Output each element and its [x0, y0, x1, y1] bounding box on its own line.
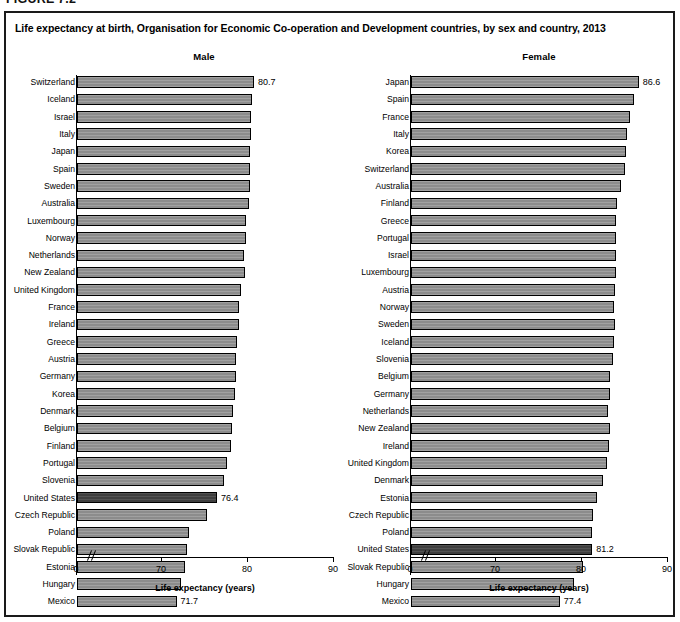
bar-row: Netherlands: [342, 404, 674, 421]
bar-row: Belgium: [8, 421, 340, 438]
bar-row-label: Luxembourg: [11, 216, 75, 227]
bar: [77, 284, 241, 296]
chart-male-plot: Switzerland80.7IcelandIsraelItalyJapanSp…: [8, 75, 340, 575]
charts-container: Male Switzerland80.7IcelandIsraelItalyJa…: [6, 49, 673, 615]
bar-row: Finland: [8, 439, 340, 456]
bar-row: Slovenia: [342, 352, 674, 369]
bar: [77, 336, 237, 348]
bar-row: Estonia: [342, 491, 674, 508]
bar-row-label: Italy: [11, 129, 75, 140]
chart-male-axis-title: Life expectancy (years): [76, 583, 334, 593]
bar-row: Korea: [8, 387, 340, 404]
bar-row-label: Spain: [345, 94, 409, 105]
bar-row-label: Germany: [11, 371, 75, 382]
bar: [77, 198, 249, 210]
figure-panel: Life expectancy at birth, Organisation f…: [4, 11, 675, 617]
bar-row: Iceland: [342, 335, 674, 352]
axis-tick: [581, 557, 582, 562]
bar: [411, 353, 613, 365]
bar: [411, 163, 625, 175]
bar-row-label: Israel: [345, 250, 409, 261]
bar: [411, 509, 593, 521]
bar-value-label: 80.7: [258, 77, 276, 88]
bar-row-label: New Zealand: [345, 423, 409, 434]
bar: [77, 267, 245, 279]
bar-row-label: Denmark: [345, 475, 409, 486]
bar: [77, 94, 252, 106]
bar-row: Spain: [8, 162, 340, 179]
bar-row-label: Czech Republic: [345, 510, 409, 521]
bar-row-label: Switzerland: [11, 77, 75, 88]
bar-row-label: Belgium: [345, 371, 409, 382]
bar-row-label: Japan: [345, 77, 409, 88]
bar-row-label: Iceland: [11, 94, 75, 105]
bar-row: Austria: [8, 352, 340, 369]
chart-male: Male Switzerland80.7IcelandIsraelItalyJa…: [8, 49, 340, 615]
bar: [411, 371, 610, 383]
bar-row: Czech Republic: [342, 508, 674, 525]
bar-row: New Zealand: [8, 265, 340, 282]
bar: [411, 336, 614, 348]
chart-female-value-axis: 0708090 Life expectancy (years): [342, 549, 674, 615]
bar: [411, 475, 603, 487]
bar-row-label: Ireland: [345, 441, 409, 452]
bar-row-label: United Kingdom: [345, 458, 409, 469]
bar-row-label: Israel: [11, 112, 75, 123]
bar: [411, 198, 617, 210]
bar-row-label: Greece: [345, 216, 409, 227]
bar-row: Slovenia: [8, 473, 340, 490]
bar: [77, 163, 250, 175]
bar-row-label: New Zealand: [11, 267, 75, 278]
bar-row-label: Netherlands: [11, 250, 75, 261]
bar: [411, 492, 597, 504]
bar-row-label: Korea: [345, 146, 409, 157]
bar-row-label: Austria: [11, 354, 75, 365]
bar-value-label: 86.6: [643, 77, 661, 88]
bar-row-label: Portugal: [345, 233, 409, 244]
bar: [77, 388, 235, 400]
figure-number: FIGURE 7.2: [6, 0, 76, 6]
bar-row: Iceland: [8, 92, 340, 109]
chart-female-bar-rows: Japan86.6SpainFranceItalyKoreaSwitzerlan…: [342, 75, 674, 612]
bar-row-label: United States: [11, 493, 75, 504]
bar-row-label: Norway: [11, 233, 75, 244]
bar-highlighted: [77, 492, 217, 504]
bar-row: France: [342, 110, 674, 127]
bar: [77, 475, 224, 487]
bar: [411, 440, 609, 452]
axis-tick: [667, 557, 668, 562]
bar-row-label: Poland: [11, 527, 75, 538]
bar-row: Israel: [342, 248, 674, 265]
bar-row: Germany: [342, 387, 674, 404]
bar: [411, 405, 608, 417]
bar-row-label: United Kingdom: [11, 285, 75, 296]
bar: [77, 76, 254, 88]
bar-row: United Kingdom: [8, 283, 340, 300]
axis-tick-label: 0: [407, 564, 412, 574]
bar-row: Israel: [8, 110, 340, 127]
bar: [77, 457, 227, 469]
bar-row-label: Portugal: [11, 458, 75, 469]
bar-row: Switzerland80.7: [8, 75, 340, 92]
bar-row-label: Luxembourg: [345, 267, 409, 278]
bar: [411, 267, 616, 279]
bar-row-label: Norway: [345, 302, 409, 313]
bar: [77, 111, 251, 123]
bar: [411, 319, 615, 331]
bar-row: Italy: [8, 127, 340, 144]
chart-female-plot: Japan86.6SpainFranceItalyKoreaSwitzerlan…: [342, 75, 674, 575]
bar: [411, 250, 616, 262]
bar-row-label: Czech Republic: [11, 510, 75, 521]
bar: [77, 319, 239, 331]
axis-tick: [247, 557, 248, 562]
bar: [77, 405, 233, 417]
bar-row-label: Australia: [11, 198, 75, 209]
chart-male-heading: Male: [8, 51, 340, 62]
bar-row: Austria: [342, 283, 674, 300]
bar-row-label: Germany: [345, 389, 409, 400]
bar-row: Netherlands: [8, 248, 340, 265]
bar-row: Germany: [8, 369, 340, 386]
bar-row: Ireland: [8, 317, 340, 334]
bar-row-label: Korea: [11, 389, 75, 400]
bar-row: Denmark: [8, 404, 340, 421]
